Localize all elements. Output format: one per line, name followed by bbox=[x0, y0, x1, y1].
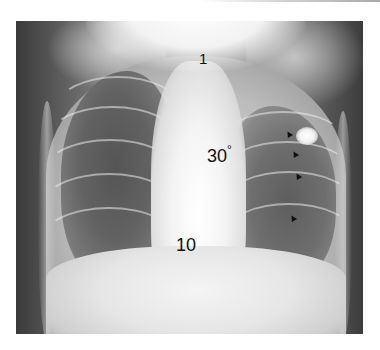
top-rule-line bbox=[200, 0, 380, 2]
xray-image bbox=[16, 21, 363, 334]
annotation-label-30-number: 30 bbox=[207, 146, 227, 166]
annotation-label-1: 1 bbox=[199, 51, 207, 66]
rib bbox=[226, 203, 352, 262]
rib bbox=[42, 207, 176, 271]
annotation-label-10: 10 bbox=[176, 236, 196, 254]
degree-symbol: ° bbox=[227, 143, 232, 157]
annotation-label-30: 30° bbox=[207, 147, 232, 165]
left-shoulder bbox=[246, 21, 363, 111]
neck bbox=[86, 21, 306, 71]
